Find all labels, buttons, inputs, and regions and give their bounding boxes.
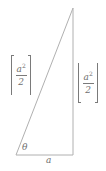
geometry-figure: a2 2 a2 2 θ a: [0, 0, 106, 171]
floor-area-label: a2 2: [78, 63, 98, 103]
base-length-label: a: [46, 156, 51, 165]
ceiling-numerator: a2: [16, 64, 27, 74]
angle-theta-label: θ: [22, 143, 27, 152]
floor-exponent: 2: [89, 70, 93, 77]
floor-open-bracket-icon: [78, 63, 81, 103]
ceiling-area-label: a2 2: [11, 55, 31, 95]
ceiling-exponent: 2: [22, 62, 26, 69]
ceiling-open-bracket-icon: [11, 55, 14, 95]
ceiling-denominator: 2: [17, 77, 25, 87]
floor-fraction-bar: [83, 83, 94, 84]
ceiling-fraction-bar: [16, 75, 27, 76]
ceiling-close-bracket-icon: [28, 55, 31, 95]
floor-fraction: a2 2: [83, 72, 94, 95]
floor-numerator: a2: [83, 72, 94, 82]
ceiling-fraction: a2 2: [16, 64, 27, 87]
floor-denominator: 2: [84, 85, 92, 95]
floor-close-bracket-icon: [95, 63, 98, 103]
